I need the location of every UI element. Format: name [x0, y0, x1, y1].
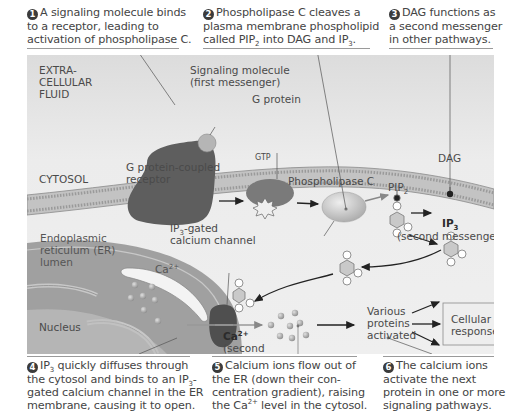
step-number-3: 3	[389, 9, 400, 20]
caption-rule-6	[383, 356, 494, 357]
caption-step-2: 2Phospholipase C cleaves a plasma membra…	[203, 6, 379, 46]
step-number-5: 5	[212, 362, 223, 373]
caption-step-4: 4IP3 quickly diffuses through the cytoso…	[27, 359, 204, 411]
caption-rule-5	[212, 356, 357, 357]
label-cytosol: CYTOSOL	[39, 173, 88, 185]
label-pip2: PIP2	[388, 181, 408, 193]
caption-step-1: 1A signaling molecule binds to a recepto…	[27, 6, 192, 46]
label-cellular-responses: Cellular responses	[451, 313, 494, 337]
signaling-molecule	[198, 134, 216, 152]
label-ca-er: Ca2+	[155, 263, 179, 275]
diagram-panel: EXTRA- CELLULAR FLUID CYTOSOL Endoplasmi…	[27, 55, 494, 354]
label-ip3: IP3	[442, 217, 458, 229]
label-various-proteins: Various proteins activated	[367, 305, 416, 341]
caption-step-5: 5Calcium ions flow out of the ER (down t…	[212, 359, 367, 411]
caption-rule-2	[203, 48, 370, 49]
label-signaling-molecule: Signaling molecule (first messenger)	[190, 64, 290, 88]
label-dag: DAG	[438, 152, 461, 164]
label-ca-cytosol: Ca2+	[223, 330, 249, 342]
label-ca-second-messenger: (second messenger)	[223, 342, 285, 354]
label-phospholipase-c: Phospholipase C	[288, 175, 374, 187]
label-gpcr: G protein-coupled receptor	[126, 161, 220, 185]
step-number-1: 1	[27, 9, 38, 20]
step-number-4: 4	[27, 362, 38, 373]
caption-step-6: 6The calcium ions activate the next prot…	[383, 359, 505, 411]
caption-rule-1	[27, 48, 179, 49]
label-ip3-gated-channel: IP3-gated calcium channel	[170, 222, 256, 246]
label-extracellular-fluid: EXTRA- CELLULAR FLUID	[39, 64, 92, 100]
step-number-2: 2	[203, 9, 214, 20]
caption-step-3: 3DAG functions as a second messenger in …	[389, 6, 502, 46]
label-ip3-second-messenger: (second messenger)	[397, 230, 494, 242]
caption-rule-3	[389, 48, 493, 49]
label-er-lumen: Endoplasmic reticulum (ER) lumen	[40, 232, 115, 268]
step-number-6: 6	[383, 362, 394, 373]
label-g-protein: G protein	[252, 93, 301, 105]
label-nucleus: Nucleus	[39, 321, 81, 333]
caption-rule-4	[27, 356, 190, 357]
label-gtp: GTP	[255, 152, 271, 164]
